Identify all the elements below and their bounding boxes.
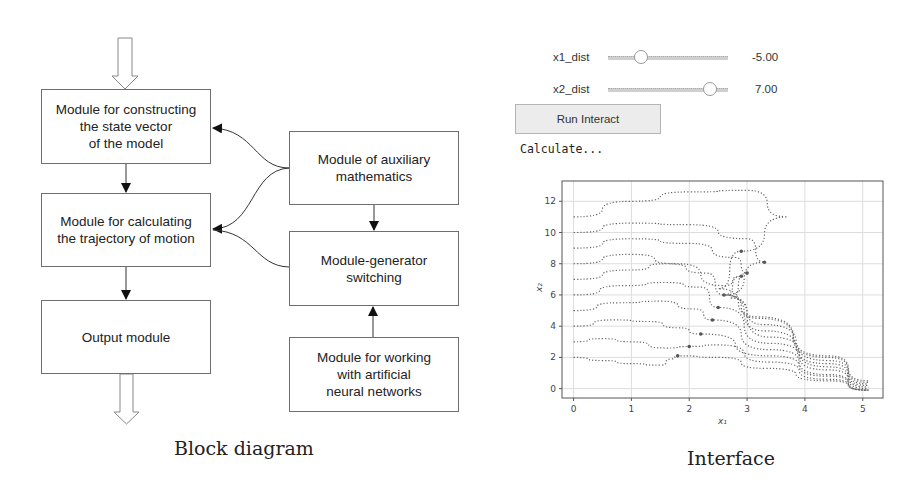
svg-text:10: 10 <box>545 228 557 238</box>
svg-text:0: 0 <box>571 404 577 414</box>
interface-caption: Interface <box>687 447 775 469</box>
trajectory-plot: 012345024681012 x₁ x₂ <box>0 0 923 440</box>
svg-text:4: 4 <box>802 404 808 414</box>
svg-text:12: 12 <box>545 196 556 206</box>
plot-ticks: 012345024681012 <box>545 196 866 414</box>
svg-text:6: 6 <box>550 290 556 300</box>
svg-text:2: 2 <box>550 352 556 362</box>
svg-text:5: 5 <box>860 404 866 414</box>
svg-text:1: 1 <box>629 404 635 414</box>
x-axis-label: x₁ <box>717 416 727 426</box>
svg-text:3: 3 <box>744 404 750 414</box>
svg-text:2: 2 <box>686 404 692 414</box>
y-axis-label: x₂ <box>534 283 544 293</box>
svg-text:4: 4 <box>550 321 556 331</box>
svg-text:0: 0 <box>550 384 556 394</box>
svg-text:8: 8 <box>550 259 556 269</box>
plot-grid <box>562 181 883 398</box>
plot-series <box>574 190 869 390</box>
block-diagram-caption: Block diagram <box>174 437 314 459</box>
plot-frame <box>562 181 883 398</box>
